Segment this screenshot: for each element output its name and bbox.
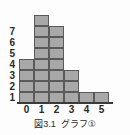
y-tick-label-4: 4: [9, 60, 15, 70]
bar-unit-cell: [34, 15, 49, 26]
x-tick-label-2: 2: [49, 104, 64, 116]
x-tick-label-5: 5: [94, 104, 109, 116]
bar-column-1: [34, 15, 49, 103]
x-axis: 012345: [19, 104, 111, 117]
bar-unit-cell: [64, 81, 79, 92]
bar-unit-cell: [49, 26, 64, 37]
bar-unit-cell: [19, 59, 34, 70]
bar-unit-cell: [34, 48, 49, 59]
y-tick-label-2: 2: [9, 82, 15, 92]
bar-unit-cell: [34, 81, 49, 92]
x-tick-label-1: 1: [34, 104, 49, 116]
y-tick-label-1: 1: [9, 93, 15, 103]
bar-unit-cell: [34, 26, 49, 37]
x-tick-label-4: 4: [79, 104, 94, 116]
bar-column-2: [49, 26, 64, 103]
y-tick-label-5: 5: [9, 49, 15, 59]
bar-unit-cell: [49, 37, 64, 48]
bar-unit-cell: [64, 70, 79, 81]
figure-caption: 図3.1グラフ①: [0, 118, 130, 130]
bar-unit-cell: [49, 48, 64, 59]
bar-unit-cell: [49, 59, 64, 70]
caption-number: 図3.1: [34, 119, 56, 129]
bar-unit-cell: [19, 81, 34, 92]
bar-unit-cell: [49, 70, 64, 81]
y-tick-label-7: 7: [9, 27, 15, 37]
y-tick-label-3: 3: [9, 71, 15, 81]
bar-unit-cell: [34, 59, 49, 70]
bar-unit-cell: [34, 70, 49, 81]
bar-unit-cell: [34, 37, 49, 48]
y-tick-label-6: 6: [9, 38, 15, 48]
bar-unit-cell: [49, 81, 64, 92]
bar-column-0: [19, 59, 34, 103]
y-axis: 1234567: [0, 6, 17, 103]
figure-graph-1: 1234567 012345 図3.1グラフ①: [0, 0, 130, 135]
x-tick-label-3: 3: [64, 104, 79, 116]
x-tick-label-0: 0: [19, 104, 34, 116]
plot-area: [19, 6, 111, 103]
bar-column-3: [64, 70, 79, 103]
bar-unit-cell: [19, 70, 34, 81]
caption-title: グラフ①: [61, 119, 96, 129]
